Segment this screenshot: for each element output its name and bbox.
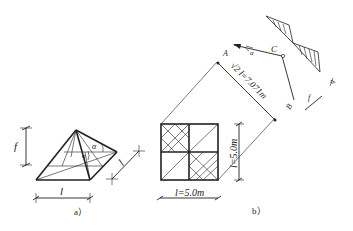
angle-label-a1: α bbox=[92, 142, 97, 151]
caption-a: a） bbox=[74, 207, 87, 217]
height-label-f: f bbox=[14, 140, 19, 152]
rise-label-f: f bbox=[308, 93, 312, 102]
plan-right-label: l=5.0m bbox=[228, 139, 239, 168]
point-b-label: B bbox=[284, 102, 294, 111]
point-c-label: C bbox=[271, 44, 278, 54]
figure-a-pyramid bbox=[36, 130, 117, 180]
figure-b-plan bbox=[161, 124, 218, 180]
angle-label-b: α bbox=[250, 49, 254, 57]
height-dimension bbox=[20, 126, 32, 167]
side-label-l: l bbox=[116, 157, 127, 168]
point-a-label: A bbox=[222, 49, 228, 58]
diagonal-label: √2 l=7.071m bbox=[229, 60, 270, 101]
diagram-canvas: α α f l l a） bbox=[0, 0, 353, 231]
angle-label-a2: α bbox=[82, 152, 86, 160]
caption-b: b） bbox=[252, 206, 266, 216]
projection-line-bottom bbox=[218, 118, 275, 180]
plan-bottom-label: l=5.0m bbox=[175, 187, 204, 198]
projection-line-top bbox=[161, 62, 217, 124]
base-label-l: l bbox=[60, 185, 63, 197]
